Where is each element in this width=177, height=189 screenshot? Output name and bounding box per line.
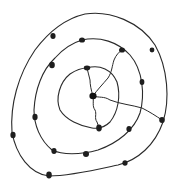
node-middle-right xyxy=(140,79,145,85)
spoke-hub-to-inner-bottom xyxy=(93,96,99,128)
node-outer-right xyxy=(159,117,165,123)
node-middle-lower-left xyxy=(51,148,56,154)
node-middle-left xyxy=(32,114,37,120)
node-outer-left xyxy=(10,132,15,138)
node-outer-upper-right xyxy=(150,48,155,53)
node-middle-top xyxy=(79,37,85,42)
concentric-loops-diagram xyxy=(0,0,177,189)
node-middle-upper-right xyxy=(119,47,125,52)
node-inner-bottom xyxy=(96,125,102,132)
spoke-hub-to-outer-right xyxy=(93,96,162,120)
node-outer-upper-left xyxy=(50,33,55,39)
node-outer-bottom-left xyxy=(46,172,52,179)
hub-node xyxy=(89,93,96,99)
spoke-hub-to-inner-top xyxy=(87,68,93,96)
node-inner-top xyxy=(84,66,90,71)
node-middle-bottom xyxy=(83,151,89,157)
node-middle-lower-right xyxy=(126,126,131,132)
middle-loop xyxy=(34,39,143,154)
spoke-hub-to-middle-upper-right xyxy=(93,50,122,96)
node-middle-upper-left xyxy=(49,62,55,68)
node-outer-lower-right xyxy=(122,160,127,166)
